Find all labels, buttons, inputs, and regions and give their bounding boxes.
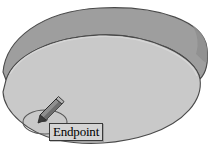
cad-screenshot-root: Endpoint [0,0,211,152]
endpoint-tooltip: Endpoint [49,123,103,141]
cad-drawing-viewport[interactable] [0,0,211,152]
